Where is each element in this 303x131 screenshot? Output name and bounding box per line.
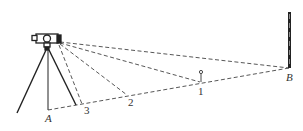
sight-line-to-b bbox=[60, 42, 289, 68]
label-b: B bbox=[286, 71, 293, 83]
survey-diagram: A 3 2 1 B bbox=[0, 0, 303, 131]
turning-pin-icon bbox=[199, 70, 202, 82]
tripod-icon bbox=[17, 50, 76, 113]
label-point-3: 3 bbox=[84, 104, 90, 116]
leveling-rod-icon bbox=[288, 12, 291, 68]
sight-line-to-1 bbox=[60, 43, 200, 82]
label-point-1: 1 bbox=[198, 85, 204, 97]
sight-lines bbox=[48, 42, 289, 110]
sight-line-to-2 bbox=[60, 44, 127, 95]
label-point-2: 2 bbox=[128, 96, 134, 108]
level-instrument-icon bbox=[32, 34, 61, 50]
label-a: A bbox=[44, 112, 52, 124]
